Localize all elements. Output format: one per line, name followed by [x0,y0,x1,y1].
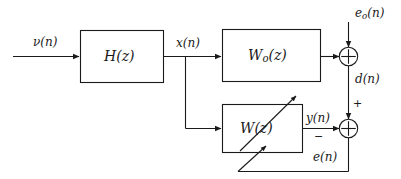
block-h-label: H(z) [104,49,135,63]
signal-label-input: ν(n) [33,36,57,48]
diagram-canvas [0,0,401,179]
sum-junction-top [339,47,357,65]
signal-label-y: y(n) [306,112,330,124]
sum-junction-bottom [339,119,357,137]
block-w-label: W(z) [240,121,273,135]
signal-label-eo: eo(n) [355,7,384,21]
block-diagram-figure: H(z) Wo(z) W(z) ν(n) x(n) eo(n) d(n) y(n… [0,0,401,179]
signal-label-d: d(n) [355,73,380,85]
signal-label-x: x(n) [176,37,200,49]
signal-label-e: e(n) [313,151,337,163]
sign-minus: − [314,131,323,142]
sign-plus: + [353,98,362,109]
block-wo-label: Wo(z) [248,48,287,64]
